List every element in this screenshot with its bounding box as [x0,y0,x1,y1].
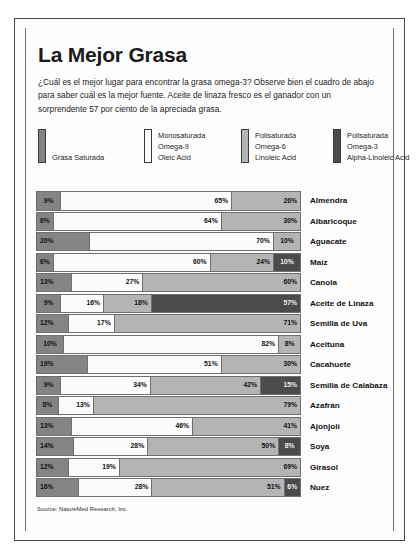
bar-segment-saturada: 16% [37,479,79,496]
bar-segment-value: 69% [283,464,297,471]
legend-label-line: Omega-6 [255,141,296,152]
stacked-bar: 14%28%50%8% [36,437,301,456]
poster-inner-rule: La Mejor Grasa ¿Cuál es el mejor lugar p… [25,28,394,531]
bar-segment-omega6: 26% [232,192,300,209]
bar-segment-value: 19% [102,464,116,471]
chart-row-label: Aguacate [301,232,346,251]
bar-segment-value: 71% [283,320,297,327]
stacked-bar: 19%51%30% [36,355,301,374]
bar-segment-omega9: 28% [74,438,148,455]
chart-row-label: Girasol [301,458,338,477]
legend-label-line: Linoleic Acid [255,152,296,163]
bar-segment-value: 34% [133,382,147,389]
bar-segment-value: 70% [256,238,270,245]
bar-segment-value: 16% [40,484,54,491]
chart-row-label: Ajonjolí [301,417,340,436]
bar-segment-omega6: 24% [211,254,274,271]
bar-segment-omega3: 15% [261,377,300,394]
bar-segment-value: 60% [283,279,297,286]
bar-segment-omega9: 16% [61,295,104,312]
bar-segment-omega9: 27% [72,274,143,291]
chart-row-label: Azafrán [301,396,340,415]
bar-segment-value: 9% [44,382,54,389]
bar-segment-value: 51% [204,361,218,368]
chart-row: 20%70%10%Aguacate [36,232,383,251]
bar-segment-value: 57% [283,300,297,307]
stacked-bar: 12%19%69% [36,458,301,477]
chart-row-label: Soya [301,437,329,456]
bar-segment-saturada: 10% [37,336,64,353]
bar-segment-saturada: 20% [37,233,90,250]
bar-segment-value: 51% [267,484,281,491]
legend-swatch-omega3 [333,129,341,163]
bar-segment-value: 20% [40,238,54,245]
chart-row-label: Maíz [301,253,328,272]
chart-row: 9%34%42%15%Semilla de Calabaza [36,376,383,395]
bar-segment-value: 17% [97,320,111,327]
bar-segment-value: 24% [256,259,270,266]
bar-segment-omega9: 46% [72,418,193,435]
bar-segment-value: 30% [283,218,297,225]
bar-segment-value: 10% [280,259,294,266]
stacked-bar: 6%64%30% [36,212,301,231]
bar-segment-omega6: 30% [222,213,300,230]
bar-segment-omega6: 50% [148,438,279,455]
bar-segment-omega3: 57% [152,295,300,312]
bar-segment-saturada: 12% [37,459,69,476]
bar-segment-value: 8% [285,341,295,348]
page-title: La Mejor Grasa [38,44,385,65]
bar-segment-value: 28% [135,484,149,491]
stacked-bar: 13%46%41% [36,417,301,436]
chart-row-label: Aceite de Linaza [301,294,373,313]
chart-row: 13%27%60%Canola [36,273,383,292]
chart-row-label: Aceituna [301,335,344,354]
bar-segment-value: 10% [280,238,294,245]
chart-row: 9%65%26%Almendra [36,191,383,210]
legend-label-line: Omega-9 [158,141,205,152]
bar-segment-value: 27% [126,279,140,286]
stacked-bar: 20%70%10% [36,232,301,251]
legend-label-line: Polisaturada [255,130,296,141]
legend-swatch-saturada [38,129,46,163]
bar-segment-omega6: 30% [222,356,300,373]
chart-row: 14%28%50%8%Soya [36,437,383,456]
bar-segment-value: 65% [215,198,229,205]
bar-segment-saturada: 9% [37,295,61,312]
chart-row-label: Canola [301,273,337,292]
bar-segment-value: 28% [131,443,145,450]
bar-segment-value: 79% [283,402,297,409]
bar-segment-saturada: 6% [37,254,54,271]
legend-label-line: Oleic Acid [158,152,205,163]
bar-segment-omega9: 28% [79,479,152,496]
bar-segment-omega9: 13% [59,397,94,414]
bar-segment-saturada: 13% [37,274,72,291]
bar-segment-omega6: 42% [151,377,261,394]
bar-segment-value: 16% [86,300,100,307]
bar-segment-omega9: 82% [64,336,279,353]
legend-label-omega3: PolisaturadaOmega-3Alpha-Linoleic Acid [347,130,409,163]
chart-row: 19%51%30%Cacahuete [36,355,383,374]
chart-legend: Grasa SaturadaMonosaturadaOmega-9Oleic A… [36,129,383,187]
legend-label-omega6: PolisaturadaOmega-6Linoleic Acid [255,130,296,163]
bar-segment-value: 41% [283,423,297,430]
legend-label-line: Alpha-Linoleic Acid [347,152,409,163]
bar-segment-omega9: 70% [90,233,274,250]
bar-segment-saturada: 19% [37,356,88,373]
bar-segment-omega6: 41% [193,418,300,435]
chart-row: 6%60%24%10%Maíz [36,253,383,272]
bar-segment-omega6: 79% [94,397,300,414]
bar-segment-value: 10% [43,341,57,348]
legend-label-omega9: MonosaturadaOmega-9Oleic Acid [158,130,205,163]
bar-segment-value: 8% [43,402,53,409]
bar-segment-value: 14% [40,443,54,450]
bar-segment-value: 8% [285,443,295,450]
poster-deck-text: ¿Cuál es el mejor lugar para encontrar l… [38,76,381,116]
legend-swatch-omega6 [241,129,249,163]
bar-segment-omega6: 18% [104,295,152,312]
bar-segment-omega3: 6% [285,479,300,496]
bar-segment-saturada: 9% [37,377,61,394]
bar-segment-omega6: 71% [115,315,300,332]
bar-segment-omega9: 51% [88,356,222,373]
chart-row-label: Semilla de Uva [301,314,367,333]
legend-label-line: Polisaturada [347,130,409,141]
